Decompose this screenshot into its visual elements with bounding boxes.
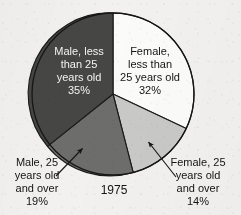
slice-label-male-under-25-line2: than 25 xyxy=(61,58,98,70)
slice-label-female-under-25-line1: Female, xyxy=(130,45,170,57)
slice-label-female-under-25-line2: less than xyxy=(128,58,172,70)
slice-label-male-under-25-line3: years old xyxy=(57,71,102,83)
callout-label-female-25-and-over-line1: Female, 25 xyxy=(170,156,225,168)
callout-label-male-25-and-over-line1: Male, 25 xyxy=(16,156,58,168)
callout-label-male-25-and-over: Male, 25 years old and over 19% xyxy=(15,156,60,207)
callout-label-male-25-and-over-percent: 19% xyxy=(26,195,48,207)
pie-chart-svg: Male, less than 25 years old 35% Female,… xyxy=(0,0,241,215)
callout-label-female-25-and-over-line2: years old xyxy=(176,169,221,181)
pie-chart-figure: Male, less than 25 years old 35% Female,… xyxy=(0,0,241,215)
slice-label-male-under-25-line1: Male, less xyxy=(54,45,104,57)
callout-label-male-25-and-over-line3: and over xyxy=(16,182,59,194)
year-caption: 1975 xyxy=(101,183,128,197)
running-head xyxy=(0,0,241,7)
slice-label-male-under-25-percent: 35% xyxy=(68,84,90,96)
callout-label-female-25-and-over-percent: 14% xyxy=(187,195,209,207)
callout-label-female-25-and-over: Female, 25 years old and over 14% xyxy=(170,156,225,207)
slice-label-female-under-25-percent: 32% xyxy=(139,84,161,96)
callout-label-female-25-and-over-line3: and over xyxy=(177,182,220,194)
slice-label-female-under-25-line3: 25 years old xyxy=(120,71,180,83)
callout-label-male-25-and-over-line2: years old xyxy=(15,169,60,181)
